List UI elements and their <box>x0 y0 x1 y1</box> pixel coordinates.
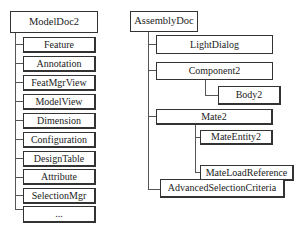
node-mate2: Mate2 <box>156 109 273 125</box>
connector <box>148 189 160 190</box>
node-annotation: Annotation <box>23 56 96 72</box>
connector <box>15 195 23 196</box>
node-designtable: DesignTable <box>23 151 96 167</box>
right-trunk-connector <box>148 32 149 190</box>
node-modeldoc2: ModelDoc2 <box>10 11 98 33</box>
connector <box>205 80 206 96</box>
node-assemblydoc: AssemblyDoc <box>130 11 198 32</box>
node-attribute: Attribute <box>23 169 96 185</box>
connector <box>15 139 23 140</box>
connector <box>148 44 156 45</box>
node-ellipsis: ... <box>23 206 96 223</box>
connector <box>15 158 23 159</box>
node-feature: Feature <box>23 37 96 53</box>
node-component2: Component2 <box>156 62 273 80</box>
connector <box>195 125 196 173</box>
node-body2: Body2 <box>218 86 281 105</box>
node-selectionmgr: SelectionMgr <box>23 188 96 204</box>
node-mateentity2: MateEntity2 <box>200 130 273 145</box>
node-dimension: Dimension <box>23 113 96 129</box>
connector <box>15 120 23 121</box>
connector <box>15 44 23 45</box>
connector <box>205 95 218 96</box>
connector <box>15 209 23 210</box>
node-featmgrview: FeatMgrView <box>23 75 96 91</box>
connector <box>15 101 23 102</box>
left-trunk-connector <box>15 33 16 209</box>
connector <box>15 63 23 64</box>
node-advancedselectioncriteria: AdvancedSelectionCriteria <box>160 179 285 198</box>
node-configuration: Configuration <box>23 132 96 148</box>
connector <box>148 116 156 117</box>
connector <box>148 70 156 71</box>
node-lightdialog: LightDialog <box>156 35 273 54</box>
connector <box>15 82 23 83</box>
node-modelview: ModelView <box>23 94 96 110</box>
connector <box>15 177 23 178</box>
